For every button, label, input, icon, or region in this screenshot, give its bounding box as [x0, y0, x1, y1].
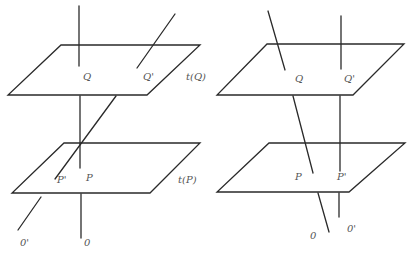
- label-tP: t(P): [178, 174, 197, 185]
- plane-tQ-right: [217, 44, 404, 95]
- plane-tP-left: [12, 143, 200, 193]
- right-figure: Q Q' P P' 0 0': [217, 11, 405, 241]
- slanted-line-top: [137, 14, 175, 68]
- label-Q-prime-right: Q': [344, 73, 355, 84]
- label-Q-left: Q: [83, 71, 91, 82]
- left-figure: Q Q' t(Q) P P' t(P) 0 0': [8, 6, 206, 248]
- label-O-right: 0: [310, 230, 317, 241]
- slanted-line-upper-right: [268, 11, 285, 70]
- label-P-left: P: [85, 172, 93, 183]
- label-Q-prime-left: Q': [143, 71, 154, 82]
- label-P-right: P: [294, 171, 302, 182]
- label-Q-right: Q: [295, 73, 303, 84]
- plane-tQ-left: [8, 45, 200, 95]
- label-P-prime-left: P': [56, 174, 66, 185]
- slanted-line-lower-right: [318, 193, 329, 232]
- slanted-line-middle-right: [293, 96, 313, 173]
- slanted-line-middle: [55, 96, 116, 179]
- slanted-line-bottom: [18, 197, 41, 230]
- label-O-prime-left: 0': [20, 237, 29, 248]
- label-tQ: t(Q): [186, 71, 206, 82]
- label-O-left: 0: [84, 237, 91, 248]
- label-P-prime-right: P': [336, 171, 346, 182]
- label-O-prime-right: 0': [347, 223, 356, 234]
- diagram-canvas: Q Q' t(Q) P P' t(P) 0 0' Q Q' P P' 0 0': [0, 0, 412, 256]
